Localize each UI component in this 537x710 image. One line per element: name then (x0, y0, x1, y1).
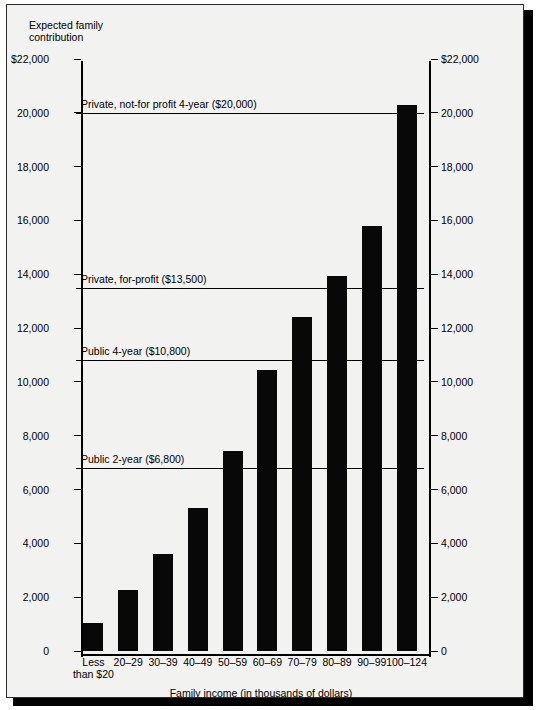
y-tick-label-right: 0 (441, 646, 447, 657)
y-tick-right (431, 543, 438, 544)
y-tick-right (431, 597, 438, 598)
y-tick-label-right: 4,000 (441, 538, 467, 549)
bar (362, 226, 382, 651)
y-tick-label-right: $22,000 (441, 54, 479, 65)
x-tick-label: 100–124 (379, 657, 435, 669)
y-tick-left (74, 381, 81, 382)
y-tick-left (74, 220, 81, 221)
x-axis-title: Family income (in thousands of dollars) (23, 687, 499, 699)
reference-line-label: Private, for-profit ($13,500) (81, 274, 206, 285)
y-tick-right (431, 166, 438, 167)
y-tick-label-left: 18,000 (17, 162, 49, 173)
y-axis-title: Expected family contribution (29, 19, 103, 43)
y-tick-label-right: 2,000 (441, 592, 467, 603)
bar (327, 276, 347, 651)
y-tick-label-right: 14,000 (441, 269, 473, 280)
y-tick-left (74, 59, 81, 60)
reference-line-label: Public 2-year ($6,800) (81, 454, 184, 465)
y-tick-left (74, 651, 81, 652)
y-tick-label-left: 10,000 (17, 377, 49, 388)
y-tick-label-right: 10,000 (441, 377, 473, 388)
y-tick-label-right: 8,000 (441, 431, 467, 442)
y-tick-label-left: 2,000 (23, 592, 49, 603)
bar (292, 317, 312, 651)
bar (257, 370, 277, 651)
y-tick-left (74, 543, 81, 544)
y-axis-right-line (429, 61, 431, 657)
chart-frame: Expected family contribution 002,0002,00… (6, 4, 524, 698)
y-tick-label-left: 12,000 (17, 323, 49, 334)
reference-line (76, 113, 424, 114)
y-tick-left (74, 597, 81, 598)
y-tick-left (74, 489, 81, 490)
y-tick-right (431, 112, 438, 113)
y-tick-right (431, 274, 438, 275)
reference-line-label: Private, not-for profit 4-year ($20,000) (81, 99, 257, 110)
y-tick-right (431, 651, 438, 652)
chart-page: Expected family contribution 002,0002,00… (0, 0, 537, 710)
y-tick-label-left: 4,000 (23, 538, 49, 549)
y-tick-label-left: 0 (43, 646, 49, 657)
y-tick-left (74, 274, 81, 275)
y-tick-left (74, 166, 81, 167)
y-axis-left-line (81, 61, 83, 657)
y-tick-left (74, 328, 81, 329)
y-tick-label-left: 20,000 (17, 108, 49, 119)
bar (153, 554, 173, 651)
y-tick-right (431, 435, 438, 436)
y-tick-label-right: 6,000 (441, 485, 467, 496)
y-tick-label-right: 16,000 (441, 215, 473, 226)
y-tick-label-left: 6,000 (23, 485, 49, 496)
y-tick-right (431, 59, 438, 60)
bar (83, 623, 103, 651)
y-tick-right (431, 328, 438, 329)
reference-line-label: Public 4-year ($10,800) (81, 346, 190, 357)
y-tick-right (431, 489, 438, 490)
bar (188, 508, 208, 651)
bar (397, 105, 417, 651)
y-tick-label-right: 12,000 (441, 323, 473, 334)
bar (118, 590, 138, 651)
y-tick-right (431, 220, 438, 221)
y-tick-label-left: 14,000 (17, 269, 49, 280)
y-tick-label-right: 20,000 (441, 108, 473, 119)
y-tick-label-left: 8,000 (23, 431, 49, 442)
y-tick-right (431, 381, 438, 382)
y-tick-label-right: 18,000 (441, 162, 473, 173)
y-tick-label-left: $22,000 (11, 54, 49, 65)
y-tick-left (74, 435, 81, 436)
bar (223, 451, 243, 651)
y-tick-label-left: 16,000 (17, 215, 49, 226)
